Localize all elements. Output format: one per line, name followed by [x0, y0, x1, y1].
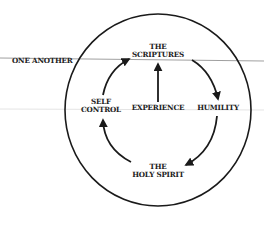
label-one-another: ONE ANOTHER: [12, 57, 73, 65]
node-humility: HUMILITY: [195, 104, 241, 112]
node-the-scriptures: THE SCRIPTURES: [130, 43, 186, 59]
arrow-scriptures-to-humility: [192, 60, 218, 99]
arrow-holy-spirit-to-self-control: [103, 120, 131, 162]
node-experience: EXPERIENCE: [130, 104, 186, 112]
node-the-holy-spirit: THE HOLY SPIRIT: [130, 163, 186, 179]
node-self-control: SELF CONTROL: [78, 98, 124, 114]
arrow-humility-to-holy-spirit: [186, 116, 217, 165]
arrow-self-control-to-scriptures: [103, 59, 129, 95]
